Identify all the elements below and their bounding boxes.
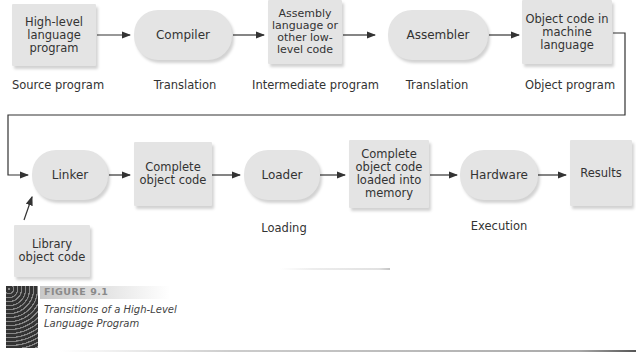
node-hardware: Hardware (460, 150, 538, 200)
node-label: Library object code (14, 238, 90, 264)
node-assembler: Assembler (388, 10, 488, 60)
figure-thumbnail (6, 286, 38, 348)
node-library-object-code: Library object code (14, 225, 90, 277)
label-translation-1: Translation (140, 78, 230, 92)
node-complete-object-code: Complete object code (134, 142, 212, 206)
node-assembly-code: Assembly language or other low-level cod… (268, 0, 342, 64)
bottom-rule (60, 350, 636, 352)
node-results: Results (570, 140, 632, 206)
divider (280, 268, 390, 270)
node-label: Assembly language or other low-level cod… (268, 8, 342, 56)
figure-number: FIGURE 9.1 (44, 286, 108, 297)
node-object-code: Object code in machine language (522, 0, 612, 64)
node-label: High-level language program (12, 16, 96, 55)
label-intermediate-program: Intermediate program (252, 78, 364, 92)
figure-caption: Transitions of a High-Level Language Pro… (44, 303, 184, 331)
label-translation-2: Translation (392, 78, 482, 92)
node-label: Object code in machine language (522, 13, 612, 52)
node-label: Results (580, 167, 622, 180)
node-loader: Loader (244, 150, 320, 200)
label-source-program: Source program (8, 78, 108, 92)
label-loading: Loading (246, 221, 322, 235)
label-object-program: Object program (520, 78, 620, 92)
node-label: Hardware (470, 169, 528, 182)
node-label: Compiler (156, 29, 210, 42)
node-label: Linker (52, 169, 88, 182)
label-execution: Execution (460, 219, 538, 233)
node-loaded-into-memory: Complete object code loaded into memory (349, 140, 429, 208)
node-compiler: Compiler (134, 10, 232, 60)
node-linker: Linker (32, 150, 108, 200)
node-label: Complete object code loaded into memory (349, 148, 429, 200)
node-high-level-program: High-level language program (12, 4, 96, 66)
node-label: Assembler (406, 29, 469, 42)
node-label: Complete object code (134, 161, 212, 187)
node-label: Loader (261, 169, 302, 182)
